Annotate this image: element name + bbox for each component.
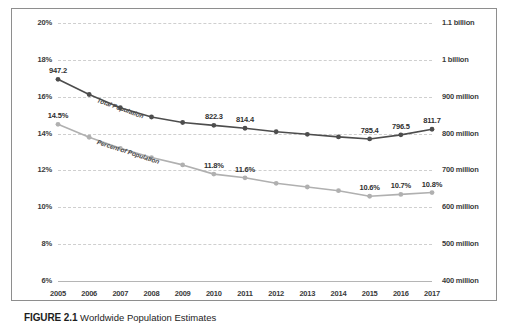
right-axis-tick-label: 700 million xyxy=(442,166,479,174)
series-point xyxy=(336,134,341,139)
x-axis-tick-label: 2012 xyxy=(268,290,284,298)
figure-caption: FIGURE 2.1 Worldwide Population Estimate… xyxy=(24,312,494,324)
x-axis-tick-label: 2017 xyxy=(424,290,440,298)
left-axis-tick-label: 16% xyxy=(38,93,52,101)
point-value-label: 811.7 xyxy=(423,117,440,125)
chart-frame: 6%8%10%12%14%16%18%20% 400 million500 mi… xyxy=(11,8,497,301)
gridline xyxy=(58,281,432,282)
left-axis-tick-label: 12% xyxy=(38,166,52,174)
x-axis-tick-label: 2016 xyxy=(393,290,409,298)
series-point xyxy=(243,126,248,131)
series-point xyxy=(180,120,185,125)
series-point xyxy=(305,185,310,190)
point-value-label: 10.6% xyxy=(360,184,380,192)
series-point xyxy=(367,194,372,199)
series-point xyxy=(430,190,435,195)
series-point xyxy=(274,129,279,134)
right-axis-tick-label: 1.1 billion xyxy=(442,19,474,27)
figure-caption-text: Worldwide Population Estimates xyxy=(77,312,216,323)
right-axis-tick-label: 1 billion xyxy=(442,56,469,64)
point-value-label: 14.5% xyxy=(48,112,68,120)
left-axis-tick-label: 20% xyxy=(38,19,52,27)
series-point xyxy=(211,172,216,177)
series-point xyxy=(56,122,61,127)
plot-area: 6%8%10%12%14%16%18%20% 400 million500 mi… xyxy=(58,23,432,281)
series-point xyxy=(211,123,216,128)
left-axis-tick-label: 10% xyxy=(38,203,52,211)
series-point xyxy=(398,192,403,197)
series-point xyxy=(367,137,372,142)
x-axis-tick-label: 2008 xyxy=(144,290,160,298)
point-value-label: 10.7% xyxy=(391,182,411,190)
left-axis-tick-label: 14% xyxy=(38,130,52,138)
series-point xyxy=(243,175,248,180)
figure-page: 6%8%10%12%14%16%18%20% 400 million500 mi… xyxy=(0,0,508,325)
series-point xyxy=(56,77,61,82)
point-value-label: 796.5 xyxy=(392,122,410,130)
series-lines xyxy=(58,23,432,281)
series-point xyxy=(149,115,154,120)
x-axis-tick-label: 2014 xyxy=(331,290,347,298)
x-axis-tick-label: 2011 xyxy=(237,290,252,298)
right-axis-tick-label: 500 million xyxy=(442,240,479,248)
left-axis-tick-label: 18% xyxy=(38,56,52,64)
series-point xyxy=(87,135,92,140)
series-point xyxy=(305,132,310,137)
x-axis-tick-label: 2005 xyxy=(50,290,66,298)
series-point xyxy=(87,92,92,97)
point-value-label: 11.6% xyxy=(235,165,255,173)
point-value-label: 947.2 xyxy=(49,67,67,75)
point-value-label: 10.8% xyxy=(422,180,442,188)
point-value-label: 814.4 xyxy=(236,116,254,124)
point-value-label: 785.4 xyxy=(361,126,379,134)
right-axis-tick-label: 400 million xyxy=(442,277,479,285)
series-point xyxy=(430,127,435,132)
right-axis-tick-label: 600 million xyxy=(442,203,479,211)
x-axis-tick-label: 2010 xyxy=(206,290,222,298)
x-axis-tick-label: 2013 xyxy=(299,290,315,298)
x-axis-tick-label: 2006 xyxy=(81,290,97,298)
series-point xyxy=(274,181,279,186)
series-point xyxy=(336,188,341,193)
right-axis-tick-label: 800 million xyxy=(442,130,479,138)
left-axis-tick-label: 6% xyxy=(42,277,52,285)
x-axis-tick-label: 2015 xyxy=(362,290,378,298)
left-axis-tick-label: 8% xyxy=(42,240,52,248)
x-axis-tick-label: 2009 xyxy=(175,290,191,298)
right-axis-tick-label: 900 million xyxy=(442,93,479,101)
point-value-label: 822.3 xyxy=(205,113,223,121)
point-value-label: 11.8% xyxy=(204,162,224,170)
series-point xyxy=(398,132,403,137)
figure-caption-label: FIGURE 2.1 xyxy=(24,312,77,323)
series-point xyxy=(180,163,185,168)
x-axis-tick-label: 2007 xyxy=(112,290,128,298)
